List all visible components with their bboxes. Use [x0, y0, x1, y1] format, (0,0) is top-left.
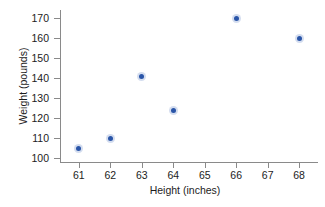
plot-area [0, 0, 325, 207]
data-point [76, 146, 81, 151]
data-point [108, 136, 113, 141]
data-point [234, 16, 239, 21]
scatter-plot: Weight (pounds) Height (inches) 10011012… [0, 0, 325, 207]
data-point [171, 108, 176, 113]
data-point [297, 36, 302, 41]
data-point [139, 74, 144, 79]
